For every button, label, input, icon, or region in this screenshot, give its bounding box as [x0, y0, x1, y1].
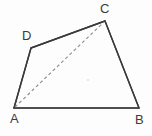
figure-background [0, 0, 152, 136]
vertex-label-c: C [100, 2, 110, 15]
vertex-label-b: B [135, 113, 144, 126]
interior-dot [87, 79, 89, 81]
geometry-figure: A B C D [0, 0, 152, 136]
vertex-label-a: A [10, 112, 19, 125]
vertex-label-d: D [22, 29, 32, 42]
quadrilateral-diagram [0, 0, 152, 136]
